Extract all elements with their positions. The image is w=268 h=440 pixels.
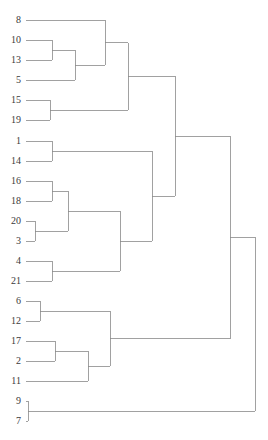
leaf-label-13: 13 bbox=[0, 55, 21, 65]
leaf-label-10: 10 bbox=[0, 35, 21, 45]
leaf-label-17: 17 bbox=[0, 336, 21, 346]
leaf-label-3: 3 bbox=[0, 236, 21, 246]
leaf-label-5: 5 bbox=[0, 75, 21, 85]
leaf-label-14: 14 bbox=[0, 156, 21, 166]
leaf-label-7: 7 bbox=[0, 416, 21, 426]
leaf-label-18: 18 bbox=[0, 196, 21, 206]
leaf-label-4: 4 bbox=[0, 256, 21, 266]
leaf-label-8: 8 bbox=[0, 15, 21, 25]
dendrogram-links bbox=[26, 20, 255, 421]
leaf-label-11: 11 bbox=[0, 376, 21, 386]
leaf-label-6: 6 bbox=[0, 296, 21, 306]
leaf-label-2: 2 bbox=[0, 356, 21, 366]
leaf-label-16: 16 bbox=[0, 176, 21, 186]
leaf-label-1: 1 bbox=[0, 136, 21, 146]
leaf-label-15: 15 bbox=[0, 95, 21, 105]
leaf-label-9: 9 bbox=[0, 396, 21, 406]
leaf-label-20: 20 bbox=[0, 216, 21, 226]
dendrogram-plot bbox=[0, 0, 268, 440]
leaf-label-19: 19 bbox=[0, 115, 21, 125]
leaf-label-21: 21 bbox=[0, 276, 21, 286]
leaf-label-12: 12 bbox=[0, 316, 21, 326]
dendrogram-figure: 810135151911416182034216121721197 bbox=[0, 0, 268, 440]
